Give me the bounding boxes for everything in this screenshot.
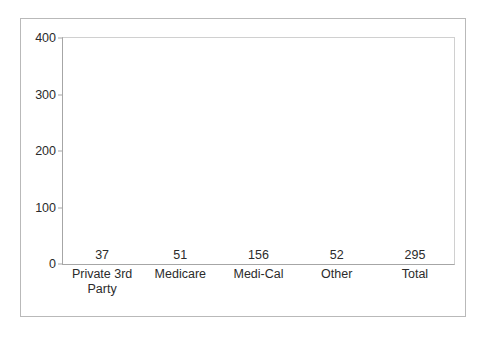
bar-value-label: 156 [248,249,269,262]
y-axis-label-100: 100 [35,201,56,214]
bar-value-label: 52 [330,249,344,262]
chart-canvas: 400 300 200 100 0 37 51 [21,19,467,318]
x-axis-labels: Private 3rd Party Medicare Medi-Cal Othe… [63,267,454,298]
bar-value-label: 37 [95,249,109,262]
bar-slot: 156 [219,38,297,264]
x-axis-label-private-3rd-party: Private 3rd Party [63,267,141,298]
y-axis-label-400: 400 [35,32,56,45]
y-axis-label-300: 300 [35,88,56,101]
bar-slot: 52 [298,38,376,264]
bar-value-label: 295 [404,249,425,262]
bar-slot: 51 [141,38,219,264]
bar-slot: 295 [376,38,454,264]
y-axis-label-0: 0 [49,258,56,271]
bar-slot: 37 [63,38,141,264]
bar-value-label: 51 [173,249,187,262]
chart-frame: 400 300 200 100 0 37 51 [20,18,466,317]
x-axis-label-other: Other [298,267,376,298]
y-axis-label-200: 200 [35,145,56,158]
x-axis-label-total: Total [376,267,454,298]
bar-series: 37 51 156 [63,38,454,264]
plot-area: 400 300 200 100 0 37 51 [62,37,455,265]
x-axis-label-medi-cal: Medi-Cal [219,267,297,298]
x-axis-label-medicare: Medicare [141,267,219,298]
